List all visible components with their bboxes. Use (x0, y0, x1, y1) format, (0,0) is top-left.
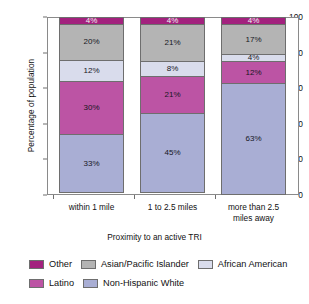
bar-segment[interactable]: 30% (59, 81, 124, 134)
legend-item[interactable]: African American (198, 260, 287, 269)
legend-swatch-icon (29, 279, 44, 288)
x-category-label-line: more than 2.5 (204, 202, 304, 213)
bar-segment-label: 8% (167, 65, 179, 73)
bar-segment[interactable]: 8% (140, 61, 205, 75)
legend-label: Asian/Pacific Islander (101, 260, 189, 269)
bar-segment-label: 21% (164, 39, 180, 47)
bar-segment[interactable]: 63% (221, 83, 286, 195)
legend-swatch-icon (83, 279, 98, 288)
legend-swatch-icon (198, 260, 213, 269)
legend-row: OtherAsian/Pacific IslanderAfrican Ameri… (0, 257, 309, 273)
bar-segment-label: 4% (86, 17, 98, 24)
bar-segment-label: 12% (83, 67, 99, 75)
bar-segment[interactable]: 17% (221, 24, 286, 54)
bar-segment[interactable]: 12% (221, 61, 286, 82)
bar-segment-label: 4% (248, 54, 260, 61)
bars-container: 4%20%12%30%33%4%21%8%21%45%4%17%4%12%63% (47, 17, 299, 195)
bar-column[interactable]: 4%21%8%21%45% (140, 17, 205, 195)
bar-segment-label: 20% (83, 38, 99, 46)
legend-swatch-icon (81, 260, 96, 269)
bar-segment[interactable]: 4% (140, 17, 205, 24)
bar-segment-label: 30% (83, 104, 99, 112)
bar-segment-label: 4% (248, 17, 260, 24)
bar-column[interactable]: 4%17%4%12%63% (221, 17, 286, 195)
legend-label: African American (218, 260, 287, 269)
bar-segment-label: 45% (164, 149, 180, 157)
bar-segment-label: 63% (245, 135, 261, 143)
bar-segment[interactable]: 45% (140, 113, 205, 193)
x-tick-mark (215, 195, 216, 199)
bar-segment-label: 21% (164, 91, 180, 99)
bar-segment-label: 12% (245, 69, 261, 77)
bar-segment[interactable]: 33% (59, 134, 124, 193)
legend-item[interactable]: Other (29, 260, 72, 269)
y-axis-title: Percentage of population (27, 21, 36, 191)
legend-label: Other (49, 260, 72, 269)
x-axis-title: Proximity to an active TRI (0, 232, 309, 242)
bar-segment[interactable]: 20% (59, 24, 124, 60)
x-category-label-line: miles away (204, 213, 304, 224)
legend-item[interactable]: Non-Hispanic White (83, 279, 184, 288)
x-tick-mark (134, 195, 135, 199)
legend-item[interactable]: Latino (29, 279, 74, 288)
legend-swatch-icon (29, 260, 44, 269)
legend-item[interactable]: Asian/Pacific Islander (81, 260, 189, 269)
x-category-label: more than 2.5miles away (204, 202, 304, 223)
bar-column[interactable]: 4%20%12%30%33% (59, 17, 124, 195)
bar-segment[interactable]: 12% (59, 60, 124, 81)
bar-segment[interactable]: 21% (140, 24, 205, 61)
legend-label: Non-Hispanic White (103, 279, 184, 288)
bar-segment[interactable]: 4% (59, 17, 124, 24)
stacked-bar-chart: Percentage of population 020406080100 4%… (0, 0, 309, 304)
bar-segment[interactable]: 21% (140, 76, 205, 113)
bar-segment-label: 4% (167, 17, 179, 24)
legend-label: Latino (49, 279, 74, 288)
bar-segment-label: 17% (245, 36, 261, 44)
bar-segment[interactable]: 4% (221, 54, 286, 61)
y-tick-label: 0 (298, 190, 303, 200)
x-tick-mark (53, 195, 54, 199)
bar-segment-label: 33% (83, 160, 99, 168)
bar-segment[interactable]: 4% (221, 17, 286, 24)
legend-row: LatinoNon-Hispanic White (0, 276, 309, 292)
